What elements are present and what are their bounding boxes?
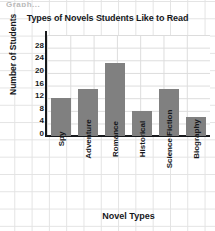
x-category-slot: Science Fiction (156, 137, 183, 205)
cropped-header-text: Graph... (6, 0, 76, 7)
bar-slot (47, 35, 74, 136)
bar-series (47, 35, 210, 136)
y-axis-tick-labels: 0481216202428 (29, 33, 44, 141)
y-tick-label: 4 (40, 117, 44, 125)
y-tick-label: 0 (40, 130, 44, 138)
x-category-slot: Romance (101, 137, 128, 205)
x-tick-label: Spy (57, 132, 66, 147)
y-tick-label: 12 (35, 92, 44, 100)
x-tick-label: Romance (111, 121, 120, 157)
x-tick-label: Adventure (84, 119, 93, 159)
y-tick-label: 16 (35, 80, 44, 88)
x-category-slot: Biography (183, 137, 210, 205)
chart-page: Graph... Types of Novels Students Like t… (0, 0, 215, 231)
y-axis-title: Number of Students (8, 19, 18, 95)
x-category-slot: Adventure (74, 137, 101, 205)
x-axis-title: Novel Types (47, 211, 210, 221)
x-category-slot: Historical (129, 137, 156, 205)
y-tick-label: 28 (35, 42, 44, 50)
y-tick-label: 20 (35, 67, 44, 75)
y-tick-label: 24 (35, 54, 44, 62)
bar (51, 98, 71, 136)
y-tick-label: 8 (40, 105, 44, 113)
chart-title: Types of Novels Students Like to Read (0, 13, 215, 23)
x-axis-category-labels: SpyAdventureRomanceHistoricalScience Fic… (47, 137, 210, 205)
x-tick-label: Science Fiction (165, 110, 174, 169)
x-tick-label: Biography (192, 119, 201, 159)
x-category-slot: Spy (47, 137, 74, 205)
x-tick-label: Historical (138, 121, 147, 157)
